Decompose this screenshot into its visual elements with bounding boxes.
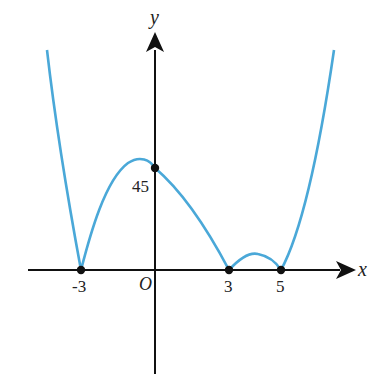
x-tick-5: 5	[276, 277, 285, 296]
origin-label: O	[139, 274, 152, 294]
point-5	[277, 266, 285, 274]
function-graph: y x O -3 3 5 45	[0, 0, 376, 374]
point-y45	[151, 164, 159, 172]
point-neg3	[77, 266, 85, 274]
curve	[47, 50, 334, 270]
y-axis-label: y	[148, 6, 159, 29]
y-axis-arrow-icon	[146, 32, 164, 52]
y-tick-45: 45	[132, 177, 149, 196]
x-axis-label: x	[357, 258, 367, 280]
x-tick-3: 3	[224, 277, 233, 296]
point-3	[225, 266, 233, 274]
marked-points	[77, 164, 285, 274]
x-tick-neg3: -3	[72, 277, 86, 296]
